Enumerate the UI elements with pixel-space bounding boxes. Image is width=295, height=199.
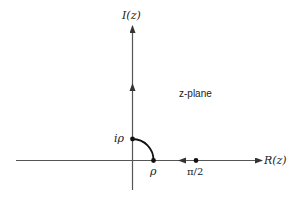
plane-title: z-plane <box>179 88 212 99</box>
up-arrow-icon <box>130 83 136 91</box>
label-pi-half: π/2 <box>187 166 203 177</box>
z-plane-diagram: I(z) R(z) z-plane iρ ρ π/2 <box>0 0 295 199</box>
contour-arc <box>133 139 154 161</box>
horizontal-axis-label: R(z) <box>263 154 287 167</box>
left-arrow-icon <box>178 158 186 164</box>
label-i-rho: iρ <box>114 132 125 145</box>
label-rho: ρ <box>149 165 157 178</box>
point-i-rho <box>130 137 135 142</box>
point-pi-half <box>194 158 199 163</box>
point-rho <box>151 158 156 163</box>
vertical-axis-label: I(z) <box>121 9 141 22</box>
